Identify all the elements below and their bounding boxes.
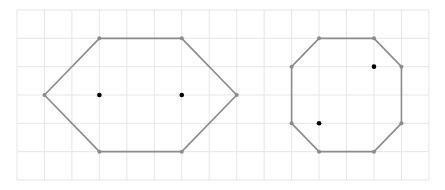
interior-point <box>179 93 184 98</box>
vertex-point <box>180 36 184 40</box>
vertex-point <box>372 150 376 154</box>
vertex-point <box>290 121 294 125</box>
vertex-point <box>317 36 321 40</box>
vertex-point <box>97 36 101 40</box>
grid-lines <box>17 10 429 180</box>
interior-point <box>372 64 377 69</box>
grid-diagram <box>0 0 445 190</box>
vertex-point <box>290 65 294 69</box>
vertex-point <box>97 150 101 154</box>
interior-point <box>317 121 322 126</box>
interior-point <box>97 93 102 98</box>
vertex-point <box>317 150 321 154</box>
vertex-point <box>42 93 46 97</box>
vertex-point <box>399 65 403 69</box>
vertex-point <box>180 150 184 154</box>
vertex-point <box>399 121 403 125</box>
vertex-point <box>235 93 239 97</box>
vertex-point <box>372 36 376 40</box>
